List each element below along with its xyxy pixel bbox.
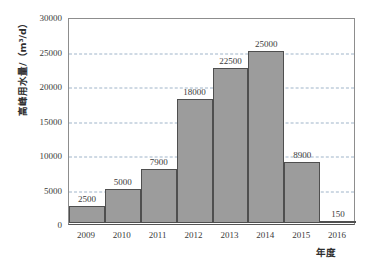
bar[interactable] — [105, 189, 141, 224]
bar-series: 2500500079001800022500250008900150 — [69, 19, 354, 223]
bar-value-label: 18000 — [183, 88, 206, 97]
bar[interactable] — [248, 51, 284, 224]
y-axis-tick-label: 25000 — [40, 48, 63, 57]
bar-slot: 8900 — [284, 19, 320, 223]
bar-slot: 5000 — [105, 19, 141, 223]
bar-slot: 22500 — [213, 19, 249, 223]
bar[interactable] — [284, 162, 320, 223]
y-axis-tick-label: 20000 — [40, 83, 63, 92]
y-axis-tick-label: 30000 — [40, 14, 63, 23]
x-axis-tick-label: 2013 — [220, 230, 238, 240]
bar-slot: 7900 — [141, 19, 177, 223]
y-axis-tick-label: 10000 — [40, 152, 63, 161]
x-axis-tick-label: 2009 — [77, 230, 95, 240]
x-axis-tick-label: 2010 — [113, 230, 131, 240]
bar[interactable] — [141, 169, 177, 224]
y-axis-tick-labels: 050001000015000200002500030000 — [24, 18, 66, 225]
bar[interactable] — [213, 68, 249, 223]
bar-value-label: 150 — [331, 210, 345, 219]
x-axis-tick-label: 2015 — [292, 230, 310, 240]
y-axis-tick-label: 5000 — [44, 186, 62, 195]
bar-value-label: 25000 — [255, 40, 278, 49]
bar-value-label: 22500 — [219, 57, 242, 66]
x-axis-tick-label: 2014 — [256, 230, 274, 240]
x-axis-tick-label: 2016 — [328, 230, 346, 240]
x-axis-tick-label: 2011 — [149, 230, 167, 240]
plot-area: 2500500079001800022500250008900150 — [68, 18, 355, 225]
bar[interactable] — [69, 206, 105, 223]
x-axis-title: 年度 — [316, 245, 336, 259]
bar-value-label: 7900 — [150, 158, 168, 167]
bar-value-label: 2500 — [78, 195, 96, 204]
bar-chart: 高峰用水量/（m³/d） 050001000015000200002500030… — [0, 0, 378, 273]
bar[interactable] — [177, 99, 213, 223]
bar-slot: 150 — [320, 19, 356, 223]
bar-value-label: 8900 — [293, 151, 311, 160]
bar-slot: 25000 — [248, 19, 284, 223]
bar[interactable] — [320, 221, 356, 223]
y-axis-tick-label: 0 — [58, 221, 63, 230]
x-axis-tick-label: 2012 — [185, 230, 203, 240]
x-axis-tick-labels: 20092010201120122013201420152016 — [68, 230, 355, 244]
y-axis-tick-label: 15000 — [40, 117, 63, 126]
bar-slot: 2500 — [69, 19, 105, 223]
bar-value-label: 5000 — [114, 178, 132, 187]
bar-slot: 18000 — [177, 19, 213, 223]
